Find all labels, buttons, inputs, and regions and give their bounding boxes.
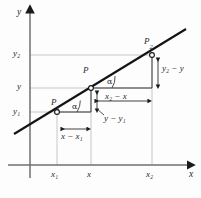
dimension-label-dy-upper: y₂ − y xyxy=(162,64,184,73)
dimension-label-dx-lower: x − x₁ xyxy=(61,132,83,141)
angle-arc-p1 xyxy=(77,101,80,113)
angle-arc-p xyxy=(112,76,115,88)
geometry-figure: y x y₂ y y₁ x₁ x x₂ P1 P P2 α α x − x₁ y… xyxy=(0,0,201,198)
y-axis-label: y xyxy=(17,8,21,18)
point-marker-p2 xyxy=(150,53,155,58)
point-label-p1-sub: 1 xyxy=(57,104,60,111)
upper-triangle xyxy=(91,55,152,88)
angle-label-alpha-p: α xyxy=(107,78,112,86)
point-label-p2: P2 xyxy=(144,37,153,46)
point-label-p1-text: P xyxy=(51,97,57,107)
y-tick-label-y1: y₁ xyxy=(13,107,20,116)
y-tick-label-y2: y₂ xyxy=(13,49,20,58)
y-tick-label-y: y xyxy=(17,82,21,91)
leader-dy-lower xyxy=(97,109,104,115)
dimension-label-dx-upper: x₂ − x xyxy=(105,92,127,101)
point-label-p1: P1 xyxy=(51,98,60,107)
figure-canvas xyxy=(0,0,201,198)
dimension-label-dy-lower: y − y₁ xyxy=(104,114,126,123)
x-axis-label: x xyxy=(189,170,193,180)
x-tick-label-x: x xyxy=(87,170,91,179)
point-label-p: P xyxy=(83,66,89,75)
x-tick-label-x1: x₁ xyxy=(51,170,58,179)
point-label-p2-sub: 2 xyxy=(150,43,153,50)
straight-line xyxy=(14,29,186,134)
point-marker-p xyxy=(89,86,94,91)
x-tick-label-x2: x₂ xyxy=(146,170,153,179)
angle-label-alpha-p1: α xyxy=(72,103,77,111)
point-label-p2-text: P xyxy=(144,36,150,46)
